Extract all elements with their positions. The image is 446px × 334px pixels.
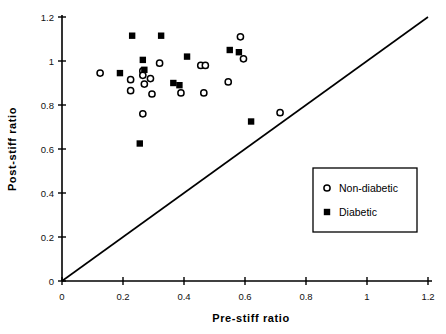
data-point-non-diabetic [201, 90, 207, 96]
legend-label: Non-diabetic [339, 182, 398, 194]
legend-marker-non-diabetic [324, 185, 330, 191]
x-tick-label: 0.6 [238, 291, 251, 302]
data-point-non-diabetic [240, 56, 246, 62]
data-point-diabetic [158, 33, 164, 39]
data-point-diabetic [227, 47, 233, 53]
plot-canvas: 00.20.40.60.811.200.20.40.60.811.2Pre-st… [0, 0, 446, 334]
y-tick-label: 1 [49, 56, 54, 67]
data-point-diabetic [141, 67, 147, 73]
legend-marker-diabetic [324, 209, 330, 215]
data-point-diabetic [140, 57, 146, 63]
data-point-non-diabetic [178, 90, 184, 96]
data-point-non-diabetic [128, 77, 134, 83]
data-point-non-diabetic [237, 34, 243, 40]
data-point-non-diabetic [128, 88, 134, 94]
y-tick-label: 0.4 [41, 188, 54, 199]
data-point-non-diabetic [202, 62, 208, 68]
x-tick-label: 0.4 [177, 291, 190, 302]
y-tick-label: 0 [49, 276, 54, 287]
x-axis-label: Pre-stiff ratio [212, 312, 289, 324]
x-tick-label: 1.2 [421, 291, 434, 302]
legend-label: Diabetic [339, 206, 377, 218]
data-point-diabetic [170, 80, 176, 86]
data-point-diabetic [117, 70, 123, 76]
data-point-non-diabetic [140, 72, 146, 78]
y-tick-label: 0.8 [41, 100, 54, 111]
y-axis-label: Post-stiff ratio [6, 107, 18, 191]
data-point-non-diabetic [147, 76, 153, 82]
y-tick-label: 1.2 [41, 12, 54, 23]
x-tick-label: 0.2 [116, 291, 129, 302]
data-point-non-diabetic [157, 60, 163, 66]
data-point-diabetic [137, 140, 143, 146]
y-tick-label: 0.6 [41, 144, 54, 155]
x-tick-label: 1 [364, 291, 369, 302]
data-point-non-diabetic [277, 110, 283, 116]
x-tick-label: 0.8 [299, 291, 312, 302]
y-tick-label: 0.2 [41, 232, 54, 243]
data-point-non-diabetic [140, 111, 146, 117]
data-point-diabetic [248, 118, 254, 124]
data-point-diabetic [236, 49, 242, 55]
data-point-diabetic [176, 82, 182, 88]
data-point-non-diabetic [97, 70, 103, 76]
scatter-plot-figure: 00.20.40.60.811.200.20.40.60.811.2Pre-st… [0, 0, 446, 334]
data-point-diabetic [129, 33, 135, 39]
data-point-non-diabetic [141, 81, 147, 87]
data-point-non-diabetic [225, 79, 231, 85]
data-point-diabetic [184, 53, 190, 59]
data-point-non-diabetic [149, 91, 155, 97]
legend-box [313, 168, 417, 232]
x-tick-label: 0 [59, 291, 64, 302]
